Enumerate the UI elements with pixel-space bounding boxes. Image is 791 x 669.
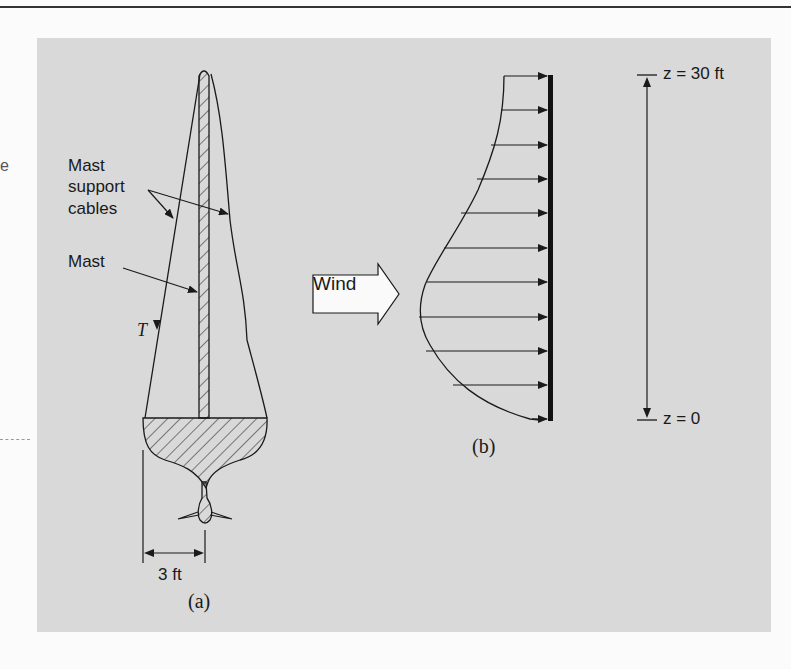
cables-label-line2: support [68,177,125,197]
sailboat-diagram [123,71,267,563]
figure-drawing [0,0,791,669]
cables-label-line1: Mast [68,156,105,176]
caption-b: (b) [472,435,495,458]
mast-label: Mast [68,252,105,272]
dimension-label: 3 ft [158,565,182,585]
wind-profile-diagram [313,75,657,421]
wind-label: Wind [313,273,356,295]
cables-label-line3: cables [68,199,117,219]
top-height-label: z = 30 ft [663,64,724,84]
caption-a: (a) [188,590,210,613]
tension-label: T [137,320,147,340]
bottom-height-label: z = 0 [663,409,700,429]
